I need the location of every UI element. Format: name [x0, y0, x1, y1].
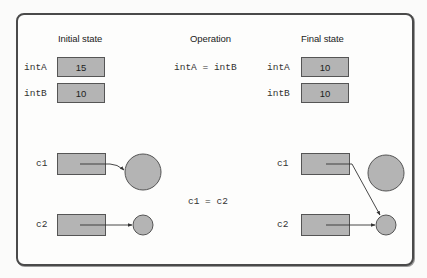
final-large-object-circle	[368, 155, 404, 191]
reference-diagram	[0, 0, 427, 278]
initial-small-object-circle	[133, 215, 153, 235]
initial-large-object-circle	[125, 154, 161, 190]
final-small-object-circle	[376, 215, 396, 235]
